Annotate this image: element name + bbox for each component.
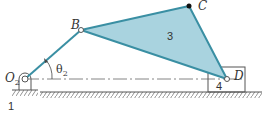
label-b: B <box>71 19 80 31</box>
label-theta2: θ2 <box>56 64 68 78</box>
label-link-3: 3 <box>167 31 173 42</box>
joint-o2 <box>22 76 28 82</box>
mechanism-diagram <box>0 0 262 114</box>
coupler-link <box>81 6 227 79</box>
label-link-4: 4 <box>216 81 222 92</box>
label-c: C <box>198 0 207 12</box>
theta-arc <box>46 60 52 79</box>
label-d: D <box>234 70 244 82</box>
label-link-1: 1 <box>8 101 14 112</box>
joint-d <box>225 77 230 82</box>
joint-c <box>187 4 192 9</box>
slider-ground <box>40 92 262 98</box>
crank-link <box>25 30 81 79</box>
label-o2: O2 <box>5 72 20 87</box>
